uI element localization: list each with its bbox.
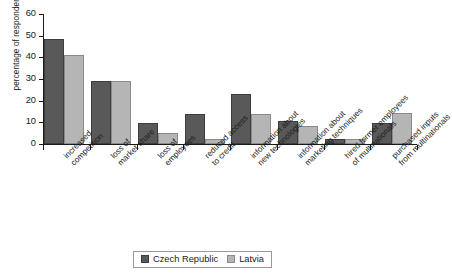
chart-legend: Czech RepublicLatvia [133,251,272,268]
y-tick-label: 0 [31,138,36,148]
y-tick-label: 40 [26,51,36,61]
y-tick: 60 [39,14,43,15]
y-axis-title: percentage of respondents [12,0,21,109]
bar-group [185,14,225,144]
y-tick: 10 [39,122,43,123]
y-tick-label: 30 [26,73,36,83]
x-tick [43,145,44,150]
legend-item[interactable]: Czech Republic [141,254,218,264]
bar-group [91,14,131,144]
y-tick: 20 [39,101,43,102]
y-tick-label: 60 [26,8,36,18]
bar [44,39,64,144]
legend-swatch-icon [141,255,149,263]
y-tick-label: 10 [26,116,36,126]
bar-group [44,14,84,144]
y-tick-label: 20 [26,95,36,105]
y-tick: 50 [39,36,43,37]
legend-swatch-icon [227,255,235,263]
y-tick-label: 50 [26,30,36,40]
y-tick: 40 [39,57,43,58]
legend-label: Czech Republic [153,254,218,264]
y-tick: 30 [39,79,43,80]
legend-item[interactable]: Latvia [227,254,264,264]
bar [64,55,84,144]
legend-label: Latvia [239,254,264,264]
